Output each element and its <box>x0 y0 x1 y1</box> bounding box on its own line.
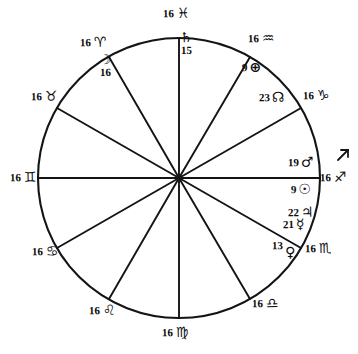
cusp-label-cancer: 16 ♋ <box>32 244 59 259</box>
planet-placement-venus: 13 ♀ <box>272 240 296 254</box>
planet-placement-moon: ☽ 16 <box>99 52 112 78</box>
mercury-icon: ☿ <box>296 217 305 231</box>
spoke-cusp-5 <box>109 57 179 178</box>
planet-degree-mercury: 21 <box>283 218 294 229</box>
cusp-degree-gemini: 16 <box>10 172 21 183</box>
taurus-icon: ♉ <box>45 89 58 103</box>
cusp-degree-cancer: 16 <box>32 246 43 257</box>
cusp-label-capricorn: 16 ♑ <box>303 88 330 103</box>
cusp-degree-taurus: 16 <box>31 91 42 102</box>
spoke-cusp-8 <box>57 178 179 248</box>
cusp-label-gemini: 16 ♊ <box>10 170 37 185</box>
spoke-cusp-9 <box>109 178 179 299</box>
cusp-label-sagittarius: 16 ♐ <box>320 170 347 185</box>
planet-placement-north-node: 23 ☊ <box>259 90 285 105</box>
sun-icon: ☉ <box>298 182 311 196</box>
cusp-label-pisces: 16 ♓ <box>163 6 190 21</box>
aries-icon: ♈ <box>94 35 107 49</box>
spoke-cusp-2 <box>179 108 301 178</box>
pisces-icon: ♓ <box>177 6 190 20</box>
leo-icon: ♌ <box>103 303 116 317</box>
aquarius-icon: ♒ <box>262 31 275 45</box>
mars-icon: ♂ <box>301 155 314 169</box>
spoke-cusp-11 <box>179 178 250 299</box>
planet-degree-venus: 13 <box>272 240 283 251</box>
part-of-fortune-icon: ⊕ <box>249 60 261 74</box>
astrology-chart-wheel: 16 ♓ 16 ♒ 16 ♑ 16 ♐ 16 ♏ 16 ♎ <box>0 0 358 354</box>
ascendant-arrow <box>338 150 348 160</box>
cusp-label-taurus: 16 ♉ <box>31 89 58 104</box>
cusp-label-scorpio: 16 ♏ <box>305 241 332 256</box>
planet-degree-sun: 9 <box>291 184 297 195</box>
planet-placement-mars: 19 ♂ <box>288 155 314 170</box>
planet-degree-part-of-fortune: 9 <box>242 62 248 73</box>
cusp-label-leo: 16 ♌ <box>89 303 116 318</box>
spoke-cusp-6 <box>57 108 179 178</box>
cancer-icon: ♋ <box>46 244 59 258</box>
planet-degree-moon: 16 <box>100 67 111 79</box>
wheel-graphic <box>0 0 358 354</box>
wheel-center-hub <box>176 175 182 181</box>
venus-icon: ♀ <box>285 245 296 259</box>
planet-placement-saturn: ♄ 15 <box>180 30 193 56</box>
planet-placement-mercury: 21 ☿ <box>283 217 305 231</box>
north-node-icon: ☊ <box>272 90 285 104</box>
cusp-degree-sagittarius: 16 <box>320 172 331 183</box>
capricorn-icon: ♑ <box>317 88 330 102</box>
libra-icon: ♎ <box>266 296 279 310</box>
virgo-icon: ♍ <box>176 325 189 339</box>
cusp-label-aries: 16 ♈ <box>80 35 107 50</box>
scorpio-icon: ♏ <box>319 241 332 255</box>
cusp-degree-virgo: 16 <box>162 327 173 338</box>
cusp-degree-capricorn: 16 <box>303 90 314 101</box>
planet-placement-sun: 9 ☉ <box>291 182 311 196</box>
saturn-icon: ♄ <box>180 30 193 45</box>
cusp-label-libra: 16 ♎ <box>252 296 279 311</box>
spoke-cusp-3 <box>179 57 250 178</box>
cusp-degree-scorpio: 16 <box>305 243 316 254</box>
cusp-label-aquarius: 16 ♒ <box>248 31 275 46</box>
gemini-icon: ♊ <box>24 170 37 184</box>
cusp-label-virgo: 16 ♍ <box>162 325 189 340</box>
planet-placement-part-of-fortune: 9 ⊕ <box>242 60 262 74</box>
cusp-degree-pisces: 16 <box>163 8 174 19</box>
cusp-degree-leo: 16 <box>89 305 100 316</box>
sagittarius-icon: ♐ <box>334 170 347 184</box>
planet-degree-north-node: 23 <box>259 92 270 103</box>
planet-degree-saturn: 15 <box>181 45 192 57</box>
moon-icon: ☽ <box>99 52 112 67</box>
cusp-degree-aquarius: 16 <box>248 33 259 44</box>
cusp-degree-libra: 16 <box>252 298 263 309</box>
spoke-cusp-12 <box>179 178 301 248</box>
cusp-degree-aries: 16 <box>80 37 91 48</box>
planet-degree-mars: 19 <box>288 157 299 168</box>
